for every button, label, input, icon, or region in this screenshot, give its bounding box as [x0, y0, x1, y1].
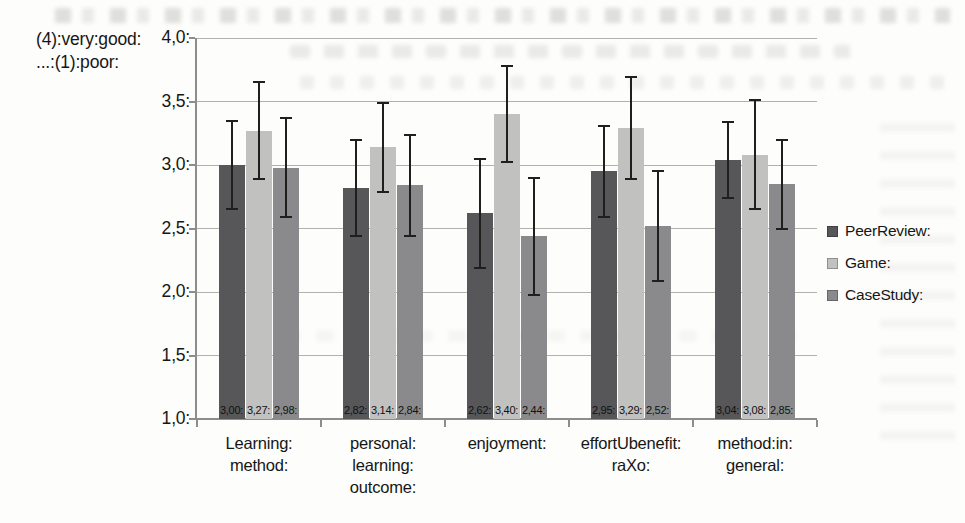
bar-value-label: 3,40:	[495, 404, 518, 416]
error-bar	[382, 103, 384, 192]
legend-item: CaseStudy:	[827, 286, 931, 304]
chart-legend: PeerReview:Game:CaseStudy:	[827, 222, 931, 318]
error-bar-cap	[377, 102, 389, 104]
error-bar-cap	[528, 177, 540, 179]
error-bar	[285, 118, 287, 217]
error-bar-cap	[474, 158, 486, 160]
legend-swatch	[827, 290, 838, 301]
error-bar-cap	[722, 121, 734, 123]
error-bar-cap	[598, 216, 610, 218]
bar-value-label: 2,82:	[344, 404, 367, 416]
bar-value-label: 2,98:	[274, 404, 297, 416]
legend-item: PeerReview:	[827, 222, 931, 240]
bar-value-label: 2,85:	[770, 404, 793, 416]
error-bar-cap	[625, 178, 637, 180]
scan-bleed-artifact	[55, 8, 950, 23]
error-bar	[781, 140, 783, 229]
error-bar	[479, 159, 481, 268]
error-bar	[533, 178, 535, 295]
error-bar	[231, 121, 233, 210]
error-bar-cap	[226, 208, 238, 210]
error-bar-cap	[226, 120, 238, 122]
y-axis-tick-label: 1,5:	[126, 345, 190, 366]
legend-swatch	[827, 226, 838, 237]
error-bar-cap	[598, 125, 610, 127]
error-bar-cap	[253, 81, 265, 83]
error-bar	[630, 77, 632, 179]
error-bar-cap	[652, 280, 664, 282]
x-axis-tick	[692, 420, 694, 427]
category-label: method:in: general:	[675, 433, 835, 477]
x-axis-tick	[320, 420, 322, 427]
legend-label: CaseStudy:	[845, 286, 923, 304]
bar-value-label: 3,27:	[247, 404, 270, 416]
legend-label: PeerReview:	[845, 222, 931, 240]
bar-value-label: 2,62:	[468, 404, 491, 416]
y-axis-tick-label: 2,5:	[126, 218, 190, 239]
error-bar-cap	[501, 65, 513, 67]
error-bar-cap	[722, 197, 734, 199]
error-bar-cap	[749, 99, 761, 101]
plot-area: 3,00:3,27:2,98:2,82:3,14:2,84:2,62:3,40:…	[197, 38, 817, 419]
error-bar-cap	[501, 161, 513, 163]
error-bar	[506, 66, 508, 163]
error-bar-cap	[404, 134, 416, 136]
error-bar-cap	[280, 117, 292, 119]
y-axis-tick-label: 3,5:	[126, 91, 190, 112]
x-axis-tick	[568, 420, 570, 427]
error-bar-cap	[280, 216, 292, 218]
error-bar	[258, 82, 260, 179]
error-bar	[603, 126, 605, 217]
legend-swatch	[827, 258, 838, 269]
scanned-figure-page: (4):very:good: ...:(1):poor: 4,0:3,5:3,0…	[0, 0, 965, 523]
error-bar-cap	[253, 178, 265, 180]
error-bar-cap	[652, 170, 664, 172]
bar-value-label: 2,52:	[646, 404, 669, 416]
error-bar-cap	[776, 139, 788, 141]
bar-value-label: 3,04:	[716, 404, 739, 416]
y-axis-tick-label: 4,0:	[126, 27, 190, 48]
bar-value-label: 2,95:	[592, 404, 615, 416]
error-bar-cap	[350, 235, 362, 237]
y-axis-tick-label: 2,0:	[126, 281, 190, 302]
error-bar-cap	[404, 235, 416, 237]
bar-value-label: 2,44:	[522, 404, 545, 416]
gridline	[197, 38, 817, 39]
error-bar-cap	[350, 139, 362, 141]
error-bar-cap	[528, 294, 540, 296]
error-bar	[657, 171, 659, 280]
error-bar-cap	[625, 76, 637, 78]
x-axis-tick	[444, 420, 446, 427]
error-bar-cap	[474, 267, 486, 269]
error-bar	[754, 100, 756, 209]
y-axis-tick-label: 1,0:	[126, 408, 190, 429]
x-axis-tick	[816, 420, 818, 427]
x-axis-tick	[196, 420, 198, 427]
bar-value-label: 3,08:	[743, 404, 766, 416]
error-bar	[409, 135, 411, 237]
y-axis-tick-label: 3,0:	[126, 154, 190, 175]
y-axis-line	[195, 38, 197, 419]
legend-label: Game:	[845, 254, 891, 272]
error-bar	[727, 122, 729, 198]
bar-value-label: 2,84:	[398, 404, 421, 416]
legend-item: Game:	[827, 254, 931, 272]
error-bar-cap	[377, 191, 389, 193]
bar-value-label: 3,14:	[371, 404, 394, 416]
error-bar	[355, 140, 357, 237]
bar-value-label: 3,00:	[220, 404, 243, 416]
bar-value-label: 3,29:	[619, 404, 642, 416]
error-bar-cap	[749, 208, 761, 210]
error-bar-cap	[776, 228, 788, 230]
